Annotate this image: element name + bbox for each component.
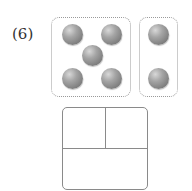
answer-box <box>62 107 148 190</box>
answer-cell-part-2[interactable] <box>106 108 147 149</box>
answer-cell-whole[interactable] <box>63 149 147 189</box>
answer-cell-part-1[interactable] <box>63 108 106 149</box>
left-ball-group <box>51 17 131 97</box>
ball <box>101 68 122 89</box>
ball <box>101 24 122 45</box>
ball <box>62 24 83 45</box>
ball <box>82 45 103 66</box>
ball <box>62 68 83 89</box>
ball <box>148 24 169 45</box>
right-ball-group <box>139 17 178 97</box>
ball <box>148 68 169 89</box>
problem-number: (6) <box>12 25 33 43</box>
